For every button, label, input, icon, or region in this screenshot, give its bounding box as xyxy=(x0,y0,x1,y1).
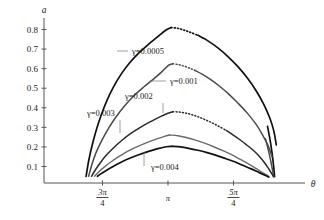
curves-layer xyxy=(86,28,276,178)
y-tick-label: 0.7 xyxy=(27,44,39,54)
curve-label: γ=0.003 xyxy=(86,108,115,118)
y-tick-label: 0.1 xyxy=(27,162,38,172)
x-tick-label-numerator: 3π xyxy=(97,187,107,197)
y-tick-label: 0.4 xyxy=(27,103,39,113)
y-tick-label: 0.2 xyxy=(27,142,38,152)
curve-branch-unstable xyxy=(171,28,198,36)
curve-label: γ=0.001 xyxy=(169,76,198,86)
curve-branch-solid xyxy=(89,64,173,177)
x-tick-label: π xyxy=(166,193,171,203)
y-axis-name: a xyxy=(42,5,47,15)
y-tick-label: 0.3 xyxy=(27,123,39,133)
x-tick-label-denominator: 4 xyxy=(231,198,236,208)
y-tick-label: 0.8 xyxy=(27,25,39,35)
curve-branch-tail xyxy=(226,130,273,176)
chart-svg: 0.10.20.30.40.50.60.70.83π4π5π4 γ=0.0005… xyxy=(0,0,324,220)
y-tick-label: 0.5 xyxy=(27,83,39,93)
axes-layer xyxy=(44,18,305,183)
curve-label-group: γ=0.0005 xyxy=(117,46,164,56)
curve-label: γ=0.002 xyxy=(124,91,153,101)
x-tick-label-numerator: 5π xyxy=(229,187,238,197)
curve-label: γ=0.0005 xyxy=(131,46,164,56)
curve-label: γ=0.004 xyxy=(150,162,179,172)
chart-figure: 0.10.20.30.40.50.60.70.83π4π5π4 γ=0.0005… xyxy=(0,0,324,220)
curve-series xyxy=(86,28,276,177)
curve-branch-tail xyxy=(198,35,276,145)
curve-label-group: γ=0.003 xyxy=(86,108,120,133)
y-tick-label: 0.6 xyxy=(27,64,39,74)
x-tick-label-denominator: 4 xyxy=(100,198,105,208)
curve-label-group: γ=0.002 xyxy=(124,91,163,113)
x-axis-name: θ xyxy=(311,179,316,189)
curve-label-group: γ=0.001 xyxy=(150,76,198,86)
curve-label-group: γ=0.004 xyxy=(144,152,179,172)
curve-branch-unstable xyxy=(173,64,195,70)
curve-branch-unstable xyxy=(173,112,226,131)
